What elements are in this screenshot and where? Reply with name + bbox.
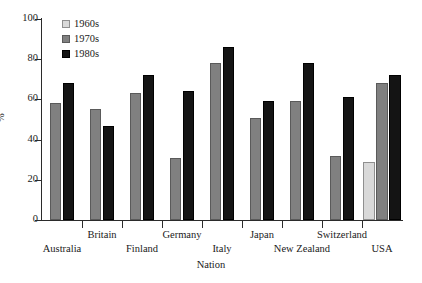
bar-group-italy	[202, 19, 242, 220]
bar-group-usa	[362, 19, 402, 220]
bar-britain-1970s	[90, 109, 102, 220]
y-axis-title: %	[0, 113, 6, 122]
x-tick-mark-4	[202, 221, 203, 228]
x-tick-mark-1	[82, 221, 83, 228]
bar-italy-1980s	[223, 47, 235, 220]
bar-usa-1980s	[389, 75, 401, 220]
y-tick-label-60: 60	[6, 93, 38, 104]
x-axis-title: Nation	[0, 259, 422, 270]
bar-usa-1970s	[376, 83, 388, 220]
x-axis-label-switzerland: Switzerland	[302, 229, 382, 240]
x-axis-label-usa: USA	[342, 243, 422, 254]
bar-finland-1970s	[130, 93, 142, 220]
x-axis-label-italy: Italy	[182, 243, 262, 254]
bar-chart: 100 80 60 40 20 0 % 1960s 1970s 1980s Au…	[0, 0, 422, 283]
x-tick-mark-3	[162, 221, 163, 228]
bar-australia-1980s	[63, 83, 75, 220]
x-axis-label-finland: Finland	[102, 243, 182, 254]
x-axis-label-germany: Germany	[142, 229, 222, 240]
y-tick-label-40: 40	[6, 134, 38, 145]
bar-germany-1970s	[170, 158, 182, 220]
x-tick-mark-8	[362, 221, 363, 228]
bar-group-japan	[242, 19, 282, 220]
y-tick-label-100: 100	[6, 13, 38, 24]
bar-group-new-zealand	[282, 19, 322, 220]
y-tick-label-20: 20	[6, 174, 38, 185]
plot-area	[42, 19, 402, 220]
x-axis-label-new-zealand: New Zealand	[262, 243, 342, 254]
bar-usa-1960s	[363, 162, 375, 220]
bar-group-switzerland	[322, 19, 362, 220]
bar-group-germany	[162, 19, 202, 220]
y-tick-label-0: 0	[6, 214, 38, 225]
x-axis-label-japan: Japan	[222, 229, 302, 240]
bar-germany-1980s	[183, 91, 195, 220]
x-axis-line	[41, 220, 403, 221]
x-tick-mark-7	[322, 221, 323, 228]
bar-new-zealand-1970s	[290, 101, 302, 220]
bar-italy-1970s	[210, 63, 222, 220]
bar-switzerland-1980s	[343, 97, 355, 220]
bar-new-zealand-1980s	[303, 63, 315, 220]
x-axis-label-australia: Australia	[22, 243, 102, 254]
bar-japan-1970s	[250, 118, 262, 221]
bar-britain-1980s	[103, 126, 115, 220]
bar-australia-1970s	[50, 103, 62, 220]
bar-finland-1980s	[143, 75, 155, 220]
bar-group-australia	[42, 19, 82, 220]
bar-group-britain	[82, 19, 122, 220]
bar-japan-1980s	[263, 101, 275, 220]
x-tick-mark-5	[242, 221, 243, 228]
x-axis-label-britain: Britain	[62, 229, 142, 240]
y-tick-label-80: 80	[6, 53, 38, 64]
x-tick-mark-2	[122, 221, 123, 228]
x-tick-mark-6	[282, 221, 283, 228]
bar-group-finland	[122, 19, 162, 220]
bar-switzerland-1970s	[330, 156, 342, 220]
